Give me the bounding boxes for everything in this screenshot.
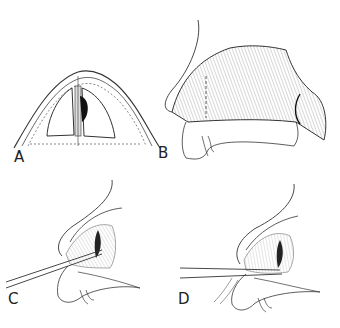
panel-label-d: D [178,290,190,308]
instrument-insertion-illustration-d [170,164,340,328]
panel-a: A [0,0,170,164]
panel-c: C [0,164,170,328]
nasal-cross-section-illustration [0,0,170,164]
panel-label-b: B [158,144,168,162]
panel-d: D [170,164,340,328]
panel-b: B [150,0,340,170]
panel-label-c: C [8,290,18,308]
nasal-lateral-view-illustration [150,0,340,170]
instrument-insertion-illustration-c [0,164,170,328]
